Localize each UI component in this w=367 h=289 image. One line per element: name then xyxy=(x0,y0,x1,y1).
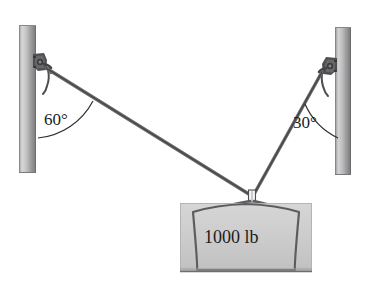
weight-value-label: 1000 lb xyxy=(204,227,259,248)
right-pole xyxy=(335,27,351,175)
right-anchor-hardware xyxy=(319,57,337,96)
statics-diagram xyxy=(0,0,367,289)
right-cable xyxy=(253,72,322,196)
angle-label-left: 60° xyxy=(44,110,68,130)
figure-canvas: 60° 30° 1000 lb xyxy=(0,0,367,289)
left-pole xyxy=(19,25,36,173)
angle-label-right: 30° xyxy=(293,113,317,133)
left-cable xyxy=(46,68,252,196)
